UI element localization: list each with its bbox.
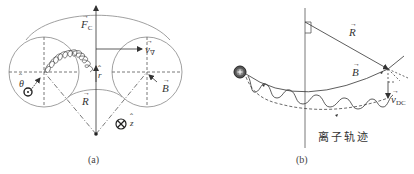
ion-trajectory	[248, 76, 393, 109]
b-field-line	[246, 56, 404, 92]
label-r-vector-a: R	[82, 96, 89, 107]
caption-b: (b)	[296, 154, 308, 165]
velocity-symbol: v	[145, 44, 150, 55]
figure-a	[9, 6, 182, 136]
guiding-center-path	[246, 77, 388, 109]
label-r-vector-b: R	[349, 27, 356, 38]
helical-orbit	[44, 50, 93, 73]
label-r-hat: r	[98, 71, 102, 80]
label-b-field-b: B	[352, 67, 359, 78]
velocity-subscript: ∇	[150, 49, 155, 57]
caption-a: (a)	[88, 154, 99, 165]
origin-point	[94, 132, 98, 136]
r-vector	[305, 22, 388, 69]
figure-b	[234, 8, 408, 148]
label-force-curvature: FC	[81, 19, 92, 32]
ion-trajectory-label: 离子轨迹	[318, 128, 370, 144]
force-subscript: C	[88, 24, 93, 32]
b-pointer-arrow	[149, 75, 157, 82]
label-velocity-grad: v∇	[145, 44, 155, 57]
inner-torus-arc	[68, 89, 122, 97]
label-theta-hat: θ	[19, 79, 24, 89]
label-drift-velocity: vDC	[391, 94, 406, 107]
force-symbol: F	[81, 19, 88, 30]
label-b-field-a: B	[162, 83, 169, 94]
label-z-hat: z	[130, 119, 134, 128]
